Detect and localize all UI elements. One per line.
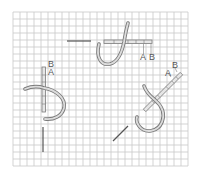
label-right-b: B [172, 61, 178, 70]
grid-lines [13, 12, 188, 166]
needle-icon [113, 126, 128, 141]
stitch-diagram [0, 0, 198, 175]
stitch-left [25, 67, 64, 152]
label-top-a: A [140, 53, 146, 62]
label-top-b: B [149, 53, 155, 62]
label-left-a: A [48, 68, 54, 77]
label-right-a: A [165, 69, 171, 78]
stitch-right [113, 68, 183, 141]
